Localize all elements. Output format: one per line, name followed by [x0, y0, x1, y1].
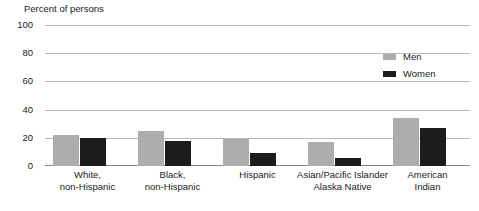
- chart-legend: MenWomen: [383, 48, 475, 82]
- y-tick-label-60: 60: [0, 76, 33, 86]
- category-label-line: non-Hispanic: [117, 181, 228, 193]
- y-tick-label-40: 40: [0, 105, 33, 115]
- category-label-line: American: [372, 169, 479, 181]
- y-tick-label-20: 20: [0, 133, 33, 143]
- y-tick-label-80: 80: [0, 48, 33, 58]
- legend-swatch-icon-men: [383, 54, 396, 60]
- y-tick-label-100: 100: [0, 20, 33, 30]
- category-label-line: Indian: [372, 181, 479, 193]
- legend-item-men: Men: [383, 48, 475, 65]
- y-axis-tick-labels: 020406080100: [45, 25, 470, 166]
- y-tick-label-0: 0: [0, 161, 33, 171]
- category-label-4: AmericanIndian: [372, 169, 479, 193]
- legend-label: Men: [403, 51, 421, 62]
- bar-chart: Percent of persons 020406080100 White,no…: [0, 0, 479, 211]
- legend-label: Women: [403, 68, 436, 79]
- legend-item-women: Women: [383, 65, 475, 82]
- x-axis-category-labels: White,non-HispanicBlack,non-HispanicHisp…: [45, 169, 470, 209]
- legend-swatch-icon-women: [383, 71, 396, 77]
- chart-axis-title: Percent of persons: [24, 3, 104, 14]
